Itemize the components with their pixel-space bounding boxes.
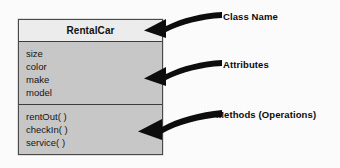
diagram-canvas: RentalCar size color make model rentOut(… (0, 0, 340, 168)
curved-arrow-left-icon (118, 12, 222, 38)
attribute-item: model (26, 86, 162, 99)
curved-arrow-left-icon (112, 110, 222, 140)
attribute-item: size (26, 47, 162, 60)
annotation-label-methods: Methods (Operations) (216, 109, 316, 120)
annotation-label-attributes: Attributes (223, 59, 269, 70)
annotation-label-class-name: Class Name (223, 11, 278, 22)
curved-arrow-left-icon (118, 60, 222, 86)
class-name-label: RentalCar (66, 25, 114, 36)
